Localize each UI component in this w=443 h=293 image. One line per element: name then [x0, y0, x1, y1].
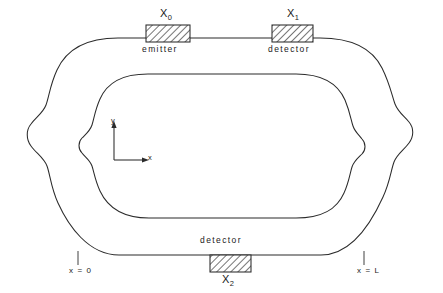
emitter-role-label: emitter [142, 45, 178, 54]
diagram-svg [0, 0, 443, 293]
detector-box-top-label: X1 [287, 8, 299, 22]
x-axis-label: x [148, 154, 152, 162]
length-marker-label: x = L [357, 267, 380, 275]
emitter-box[interactable] [146, 25, 190, 42]
detector-box-bottom-label: X2 [222, 274, 234, 288]
figure-canvas: X0 X1 X2 emitter detector detector x = 0… [0, 0, 443, 293]
emitter-box-label: X0 [160, 8, 172, 22]
detector-top-role-label: detector [268, 45, 310, 54]
detector-box-top[interactable] [272, 25, 313, 42]
detector-box-bottom[interactable] [210, 255, 251, 272]
coordinate-axes [111, 121, 149, 163]
outer-contour [27, 38, 413, 255]
origin-marker-label: x = 0 [69, 267, 92, 275]
detector-bottom-role-label: detector [200, 236, 242, 245]
y-axis-label: y [111, 117, 115, 125]
inner-contour [79, 74, 365, 218]
